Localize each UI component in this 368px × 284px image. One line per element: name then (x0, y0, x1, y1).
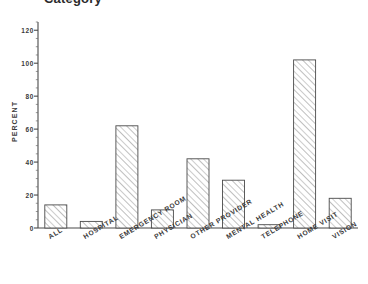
bar-chart-figure: Category PERCENT 020406080100120 ALLHOSP… (0, 0, 368, 284)
bar-series (45, 60, 351, 228)
plot-area (0, 0, 368, 284)
bar (45, 205, 67, 228)
bar (294, 60, 316, 228)
bar (116, 126, 138, 228)
